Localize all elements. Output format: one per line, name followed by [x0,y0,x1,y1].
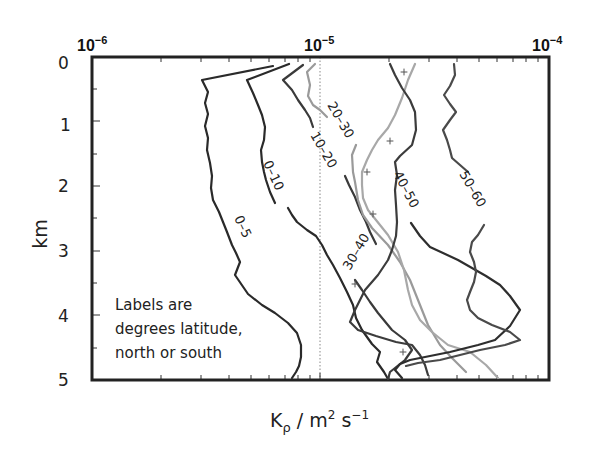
x-axis-title: Kρ / m2 s−1 [270,408,369,435]
y-axis-labels: 0 1 2 3 4 5 [58,53,71,390]
annotation-note: Labels are degrees latitude, north or so… [115,296,242,362]
note-line-1: Labels are [115,296,192,314]
label-0-5: 0–5 [231,213,254,240]
curve-0-10-lower [288,208,388,379]
label-20-30: 20–30 [324,99,357,141]
y-tick-2: 2 [58,176,69,196]
y-tick-4: 4 [58,306,69,326]
y-tick-3: 3 [58,241,69,261]
x-tick-1e-4: 10−4 [532,34,563,54]
label-50-60: 50–60 [456,168,489,210]
y-axis-title: km [29,219,51,249]
x-tick-1e-6: 10−6 [77,34,107,54]
y-tick-0: 0 [58,53,69,73]
kappa-depth-chart: 10−6 10−5 10−4 0 1 2 3 4 5 km Kρ / m2 s−… [0,0,592,453]
curve-grey-mid [362,64,498,378]
y-tick-5: 5 [58,370,69,390]
curve-50-60 [443,64,468,172]
label-10-20: 10–20 [307,129,340,171]
note-line-3: north or south [115,344,222,362]
x-tick-1e-5: 10−5 [304,34,334,54]
x-axis-top-labels: 10−6 10−5 10−4 [77,34,563,54]
y-tick-1: 1 [60,115,71,135]
curve-labels: 0–5 0–10 10–20 20–30 30–40 40–50 50–60 [231,99,489,273]
curve-20-30 [307,64,327,117]
curve-50-60-lower [406,225,520,366]
note-line-2: degrees latitude, [115,320,242,338]
label-30-40: 30–40 [340,231,373,273]
